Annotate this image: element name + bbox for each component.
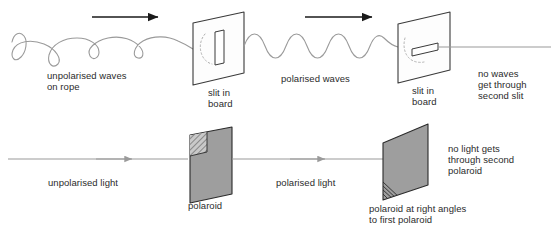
polarisation-diagram: unpolarised waves on rope slit in board … xyxy=(0,0,553,226)
label-second-slit-board-line2: board xyxy=(412,96,437,108)
label-polaroid: polaroid xyxy=(188,200,222,212)
first-polaroid xyxy=(190,127,232,203)
label-polarised-waves: polarised waves xyxy=(281,73,350,85)
first-polaroid-hatch xyxy=(190,132,207,156)
diagram-canvas xyxy=(0,0,553,226)
polarised-rope-wave xyxy=(244,34,398,58)
label-unpolarised-waves-line1: unpolarised waves xyxy=(47,70,127,82)
first-slit-board xyxy=(193,12,244,85)
label-no-waves-line1: no waves xyxy=(478,68,519,80)
unpolarised-rope-wave xyxy=(12,33,193,66)
label-unpolarised-waves-line2: on rope xyxy=(47,81,80,93)
label-first-slit-board-line2: board xyxy=(208,98,233,110)
label-first-slit-board-line1: slit in xyxy=(208,87,230,99)
label-no-waves-line3: second slit xyxy=(478,90,523,102)
label-unpolarised-light: unpolarised light xyxy=(48,177,118,189)
label-second-slit-board-line1: slit in xyxy=(412,85,434,97)
label-no-light-line2: through second xyxy=(448,154,514,166)
label-crossed-polaroid-line1: polaroid at right angles xyxy=(369,203,466,215)
label-polarised-light: polarised light xyxy=(276,177,335,189)
label-no-light-line1: no light gets xyxy=(448,143,500,155)
label-no-light-line3: polaroid xyxy=(448,165,482,177)
second-polaroid xyxy=(383,124,428,200)
label-crossed-polaroid-line2: to first polaroid xyxy=(369,214,432,226)
label-no-waves-line2: get through xyxy=(478,79,527,91)
